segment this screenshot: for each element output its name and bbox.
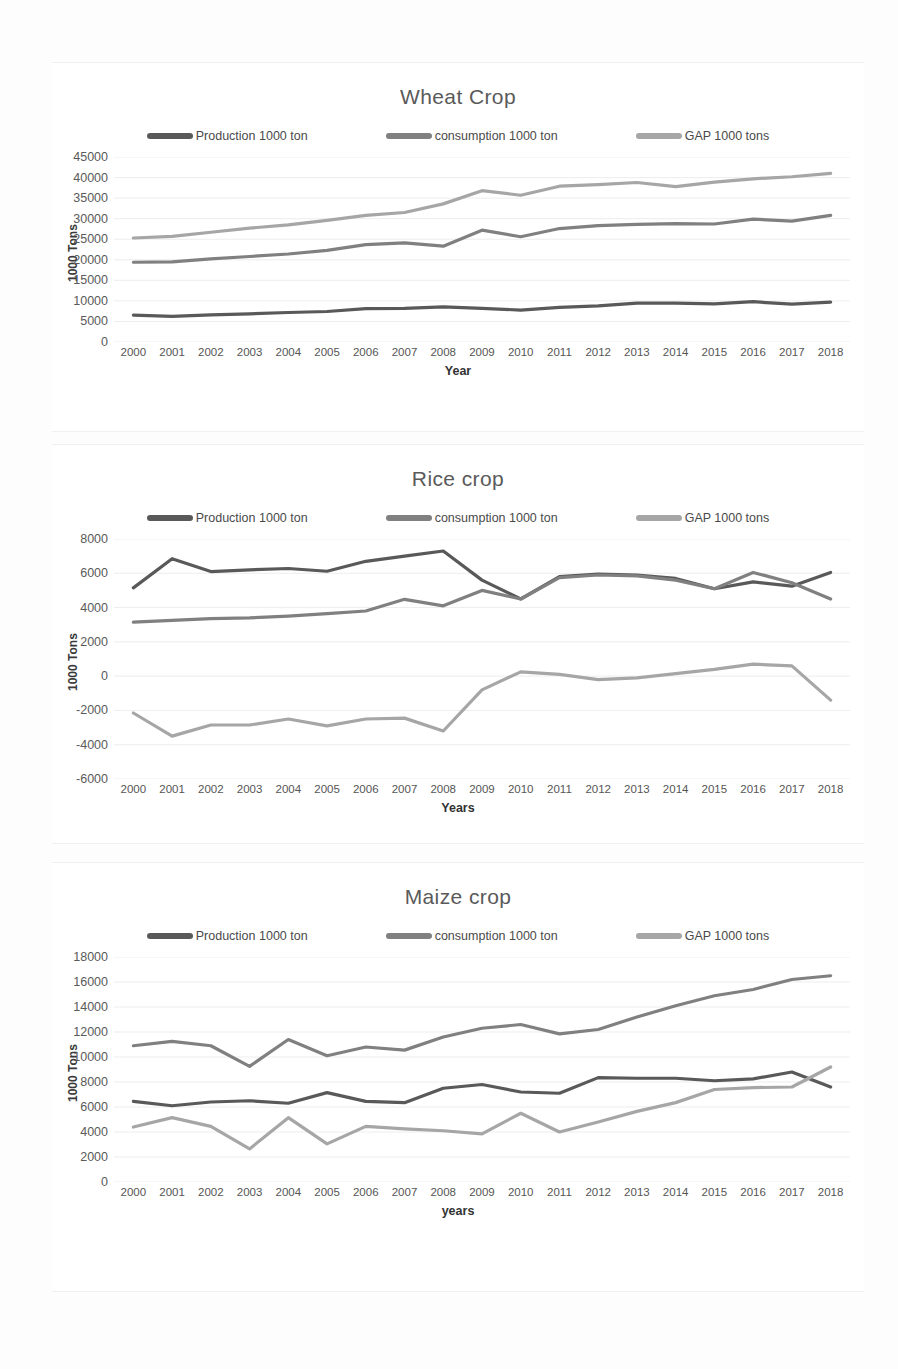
y-tick-label: 2000 bbox=[80, 635, 108, 649]
x-tick-label: 2016 bbox=[734, 783, 773, 795]
x-tick-label: 2005 bbox=[308, 1186, 347, 1198]
x-tick-label: 2016 bbox=[734, 346, 773, 358]
legend-item-production[interactable]: Production 1000 ton bbox=[147, 129, 308, 143]
x-tick-label: 2003 bbox=[230, 783, 269, 795]
legend-label-consumption: consumption 1000 ton bbox=[435, 929, 558, 943]
x-tick-label: 2000 bbox=[114, 783, 153, 795]
x-tick-label: 2012 bbox=[579, 1186, 618, 1198]
y-tick-label: 10000 bbox=[73, 294, 108, 308]
x-tick-label: 2009 bbox=[463, 1186, 502, 1198]
plot-wrap-wheat: 1000 Tons0500010000150002000025000300003… bbox=[52, 157, 864, 378]
chart-title-maize: Maize crop bbox=[52, 863, 864, 909]
legend-item-gap[interactable]: GAP 1000 tons bbox=[636, 511, 770, 525]
x-tick-label: 2014 bbox=[656, 1186, 695, 1198]
y-tick-label: 0 bbox=[101, 669, 108, 683]
x-tick-label: 2009 bbox=[463, 783, 502, 795]
x-tick-label: 2012 bbox=[579, 783, 618, 795]
legend-label-gap: GAP 1000 tons bbox=[685, 129, 770, 143]
y-tick-label: 0 bbox=[101, 1175, 108, 1189]
legend-swatch-gap bbox=[636, 933, 682, 939]
x-tick-label: 2017 bbox=[772, 1186, 811, 1198]
x-tick-label: 2004 bbox=[269, 346, 308, 358]
x-tick-label: 2004 bbox=[269, 1186, 308, 1198]
chart-svg-maize bbox=[52, 957, 864, 1182]
x-tick-label: 2011 bbox=[540, 1186, 579, 1198]
y-tick-label: 8000 bbox=[80, 1075, 108, 1089]
y-axis-ticks-wheat: 0500010000150002000025000300003500040000… bbox=[52, 157, 114, 342]
legend-maize: Production 1000 ton consumption 1000 ton… bbox=[52, 929, 864, 943]
y-tick-label: 45000 bbox=[73, 150, 108, 164]
chart-svg-wheat bbox=[52, 157, 864, 342]
x-tick-label: 2001 bbox=[153, 346, 192, 358]
x-tick-label: 2015 bbox=[695, 346, 734, 358]
y-tick-label: 30000 bbox=[73, 212, 108, 226]
x-tick-label: 2016 bbox=[734, 1186, 773, 1198]
y-tick-label: 15000 bbox=[73, 273, 108, 287]
legend-label-consumption: consumption 1000 ton bbox=[435, 511, 558, 525]
x-tick-label: 2002 bbox=[191, 346, 230, 358]
x-tick-label: 2014 bbox=[656, 783, 695, 795]
legend-item-consumption[interactable]: consumption 1000 ton bbox=[386, 511, 558, 525]
legend-label-production: Production 1000 ton bbox=[196, 129, 308, 143]
legend-swatch-production bbox=[147, 133, 193, 139]
y-tick-label: -2000 bbox=[76, 703, 108, 717]
series-line-consumption bbox=[133, 976, 830, 1067]
x-tick-label: 2018 bbox=[811, 783, 850, 795]
y-tick-label: 8000 bbox=[80, 532, 108, 546]
x-tick-label: 2018 bbox=[811, 1186, 850, 1198]
y-tick-label: 2000 bbox=[80, 1150, 108, 1164]
x-tick-label: 2014 bbox=[656, 346, 695, 358]
legend-item-production[interactable]: Production 1000 ton bbox=[147, 929, 308, 943]
x-tick-label: 2007 bbox=[385, 783, 424, 795]
plot-area-wheat: 1000 Tons0500010000150002000025000300003… bbox=[52, 157, 864, 378]
x-tick-label: 2010 bbox=[501, 783, 540, 795]
x-tick-label: 2018 bbox=[811, 346, 850, 358]
x-axis-label-rice: Years bbox=[52, 801, 864, 815]
legend-label-gap: GAP 1000 tons bbox=[685, 929, 770, 943]
x-tick-label: 2013 bbox=[618, 1186, 657, 1198]
legend-item-production[interactable]: Production 1000 ton bbox=[147, 511, 308, 525]
x-tick-label: 2015 bbox=[695, 1186, 734, 1198]
legend-label-gap: GAP 1000 tons bbox=[685, 511, 770, 525]
legend-swatch-production bbox=[147, 515, 193, 521]
x-tick-label: 2006 bbox=[346, 346, 385, 358]
legend-swatch-gap bbox=[636, 515, 682, 521]
y-tick-label: 20000 bbox=[73, 253, 108, 267]
series-line-production bbox=[133, 302, 830, 317]
legend-item-gap[interactable]: GAP 1000 tons bbox=[636, 929, 770, 943]
chart-panel-rice: Rice crop Production 1000 ton consumptio… bbox=[52, 444, 864, 844]
x-tick-label: 2001 bbox=[153, 1186, 192, 1198]
x-tick-label: 2012 bbox=[579, 346, 618, 358]
legend-label-production: Production 1000 ton bbox=[196, 929, 308, 943]
y-tick-label: 5000 bbox=[80, 314, 108, 328]
plot-area-maize: 1000 Tons0200040006000800010000120001400… bbox=[52, 957, 864, 1218]
legend-item-gap[interactable]: GAP 1000 tons bbox=[636, 129, 770, 143]
chart-panel-maize: Maize crop Production 1000 ton consumpti… bbox=[52, 862, 864, 1292]
x-tick-label: 2004 bbox=[269, 783, 308, 795]
x-tick-label: 2000 bbox=[114, 1186, 153, 1198]
legend-swatch-consumption bbox=[386, 933, 432, 939]
y-tick-label: -4000 bbox=[76, 738, 108, 752]
legend-swatch-production bbox=[147, 933, 193, 939]
x-tick-label: 2003 bbox=[230, 346, 269, 358]
x-tick-label: 2017 bbox=[772, 346, 811, 358]
y-tick-label: 16000 bbox=[73, 975, 108, 989]
x-tick-label: 2008 bbox=[424, 783, 463, 795]
legend-item-consumption[interactable]: consumption 1000 ton bbox=[386, 929, 558, 943]
x-axis-label-maize: years bbox=[52, 1204, 864, 1218]
legend-label-production: Production 1000 ton bbox=[196, 511, 308, 525]
x-tick-label: 2013 bbox=[618, 783, 657, 795]
legend-item-consumption[interactable]: consumption 1000 ton bbox=[386, 129, 558, 143]
y-tick-label: 35000 bbox=[73, 191, 108, 205]
x-tick-label: 2005 bbox=[308, 346, 347, 358]
chart-panel-wheat: Wheat Crop Production 1000 ton consumpti… bbox=[52, 62, 864, 432]
x-tick-label: 2015 bbox=[695, 783, 734, 795]
y-tick-label: 12000 bbox=[73, 1025, 108, 1039]
x-tick-label: 2001 bbox=[153, 783, 192, 795]
x-tick-label: 2011 bbox=[540, 346, 579, 358]
x-tick-label: 2006 bbox=[346, 1186, 385, 1198]
x-tick-label: 2007 bbox=[385, 1186, 424, 1198]
legend-swatch-consumption bbox=[386, 515, 432, 521]
figure-page: Wheat Crop Production 1000 ton consumpti… bbox=[0, 0, 898, 1369]
legend-swatch-consumption bbox=[386, 133, 432, 139]
